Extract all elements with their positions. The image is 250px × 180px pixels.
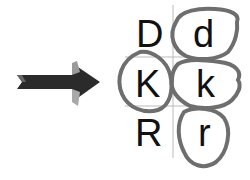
letter-d: d <box>193 15 214 53</box>
letter-R: R <box>135 114 162 152</box>
diagram-canvas: D d K k R r <box>0 0 250 180</box>
letter-r: r <box>198 114 211 152</box>
letter-K: K <box>135 65 160 103</box>
letter-D: D <box>136 15 163 53</box>
letter-k: k <box>196 65 215 103</box>
right-arrow-icon <box>17 61 100 106</box>
